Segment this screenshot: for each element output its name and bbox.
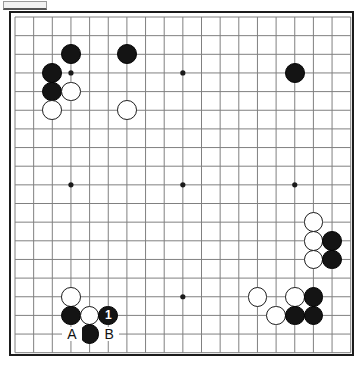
point-label-a: A (62, 327, 82, 341)
go-board-container[interactable]: 1 AB (9, 11, 354, 356)
numbered-stone[interactable]: 1 (98, 306, 118, 326)
corner-tab-marker (3, 1, 47, 10)
point-label-b: B (99, 327, 119, 341)
go-diagram-figure: 1 AB (0, 0, 363, 378)
go-board[interactable]: 1 AB (9, 11, 354, 356)
point-label-layer: AB (11, 13, 356, 358)
stone-move-number: 1 (99, 307, 117, 325)
